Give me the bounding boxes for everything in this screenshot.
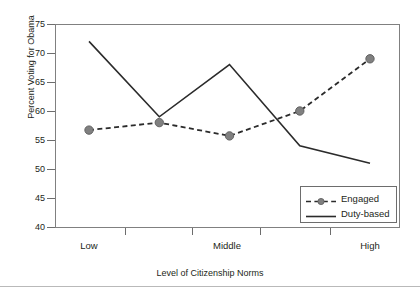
figure-bottom-rule [0, 286, 420, 287]
data-point-engaged [225, 132, 233, 140]
markers-engaged [85, 55, 374, 140]
line-duty-based [89, 41, 370, 163]
legend-label-engaged: Engaged [341, 193, 379, 204]
data-point-engaged [366, 55, 374, 63]
data-point-engaged [155, 118, 163, 126]
legend-row-duty-based: Duty-based [306, 206, 391, 221]
series-layer [0, 0, 420, 293]
legend-swatch-duty-based-icon [306, 208, 336, 219]
figure-chart: Percent Voting for Obama 75 70 65 60 55 … [0, 0, 420, 293]
line-engaged [89, 59, 370, 136]
data-point-engaged [85, 126, 93, 134]
legend-label-duty-based: Duty-based [341, 208, 390, 219]
legend: Engaged Duty-based [300, 186, 397, 223]
legend-row-engaged: Engaged [306, 191, 391, 206]
legend-swatch-engaged-icon [306, 193, 336, 204]
data-point-engaged [296, 107, 304, 115]
